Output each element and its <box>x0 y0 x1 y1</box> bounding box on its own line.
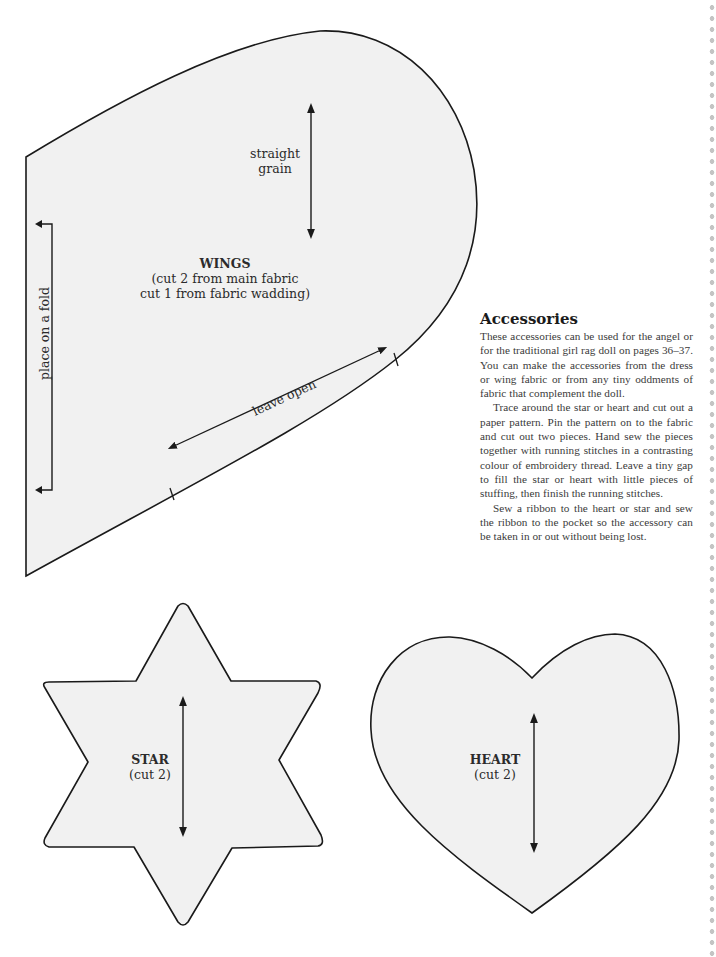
heart-label: HEART (cut 2) <box>465 752 525 782</box>
wings-pattern <box>26 31 477 576</box>
accessories-article: Accessories These accessories can be use… <box>480 310 693 543</box>
heart-title: HEART <box>465 752 525 767</box>
grain-label: straight grain <box>244 146 306 176</box>
wings-instructions-line2: cut 1 from fabric wadding) <box>140 286 310 301</box>
wings-title: WINGS <box>120 256 330 271</box>
fold-label: place on a fold <box>37 284 52 384</box>
star-pattern <box>44 604 323 926</box>
wings-instructions-line1: (cut 2 from main fabric <box>151 271 298 286</box>
article-paragraph-1: These accessories can be used for the an… <box>480 329 693 400</box>
article-paragraph-2: Trace around the star or heart and cut o… <box>480 400 693 500</box>
heart-instructions: (cut 2) <box>474 767 516 782</box>
wings-outline <box>26 31 477 576</box>
grain-label-line2: grain <box>258 161 291 176</box>
wings-label: WINGS (cut 2 from main fabric cut 1 from… <box>120 256 330 301</box>
grain-label-line1: straight <box>250 146 300 161</box>
article-heading: Accessories <box>480 310 693 328</box>
page-edge-dotted-border <box>708 2 716 957</box>
star-label: STAR (cut 2) <box>120 752 180 782</box>
star-title: STAR <box>120 752 180 767</box>
star-instructions: (cut 2) <box>129 767 171 782</box>
article-paragraph-3: Sew a ribbon to the heart or star and se… <box>480 501 693 544</box>
